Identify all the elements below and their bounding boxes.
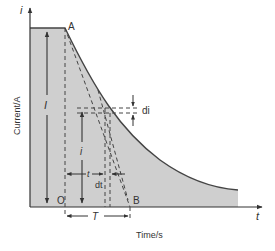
x-axis-label: Time/s <box>136 230 163 240</box>
point-A-label: A <box>68 21 75 32</box>
initial-current-label: I <box>44 99 47 111</box>
di-label: di <box>142 105 150 116</box>
x-axis-symbol: t <box>256 210 260 222</box>
T-label: T <box>92 211 99 222</box>
origin-O-label: O <box>57 195 65 206</box>
dt-label: dt <box>95 180 103 190</box>
y-axis-label: Current/A <box>12 96 22 135</box>
point-B-label: B <box>133 195 140 206</box>
area-under-curve <box>30 28 238 207</box>
y-axis-symbol: i <box>20 4 23 16</box>
discharge-curve-diagram: I i di t dt T A B O i t Time/s Current/A <box>0 0 275 251</box>
